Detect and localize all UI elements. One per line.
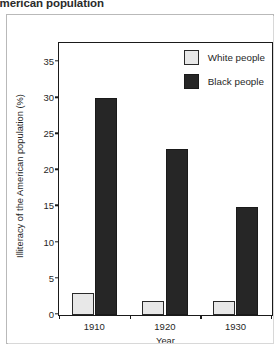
y-axis-tick-label: 10 — [20, 236, 59, 247]
x-axis-tick-mark — [130, 315, 131, 319]
legend-label: White people — [208, 52, 265, 63]
plot-area: Illiteracy of the American population (%… — [58, 42, 273, 316]
bar-black-people-1920 — [166, 149, 188, 315]
legend-item: White people — [184, 50, 265, 65]
figure-root: of the American population Illiteracy of… — [0, 0, 280, 356]
y-axis-tick-label: 30 — [20, 92, 59, 103]
bar-black-people-1930 — [236, 207, 258, 315]
bar-white-people-1930 — [213, 301, 235, 315]
y-axis-tick-mark — [55, 241, 59, 242]
legend-label: Black people — [208, 76, 264, 87]
bar-white-people-1920 — [142, 301, 164, 315]
y-axis-tick-mark — [55, 169, 59, 170]
figure-container: Illiteracy of the American population (%… — [6, 14, 274, 344]
y-axis-tick-mark — [55, 277, 59, 278]
y-axis-tick-label: 5 — [20, 272, 59, 283]
figure-title: of the American population — [0, 0, 280, 10]
y-axis-tick-mark — [55, 60, 59, 61]
y-axis-tick-label: 15 — [20, 200, 59, 211]
legend-swatch-icon — [184, 74, 199, 89]
x-axis-tick-label: 1910 — [64, 321, 124, 332]
x-axis-tick-mark — [59, 315, 60, 319]
legend-swatch-icon — [184, 50, 199, 65]
y-axis-tick-mark — [55, 133, 59, 134]
y-axis-tick-label: 20 — [20, 164, 59, 175]
legend-item: Black people — [184, 74, 265, 89]
x-axis-tick-mark — [200, 315, 201, 319]
bar-black-people-1910 — [95, 98, 117, 315]
figure-title-text: of the American population — [0, 0, 104, 10]
y-axis-tick-mark — [55, 205, 59, 206]
chart-legend: White peopleBlack people — [184, 50, 265, 89]
y-axis-tick-mark — [55, 96, 59, 97]
y-axis-tick-label: 25 — [20, 128, 59, 139]
x-axis-tick-mark — [271, 315, 272, 319]
x-axis-tick-label: 1930 — [206, 321, 266, 332]
y-axis-tick-label: 35 — [20, 56, 59, 67]
y-axis-tick-label: 0 — [20, 308, 59, 319]
x-axis-tick-label: 1920 — [135, 321, 195, 332]
bar-white-people-1910 — [72, 293, 94, 315]
x-axis-title: Year — [59, 336, 272, 346]
